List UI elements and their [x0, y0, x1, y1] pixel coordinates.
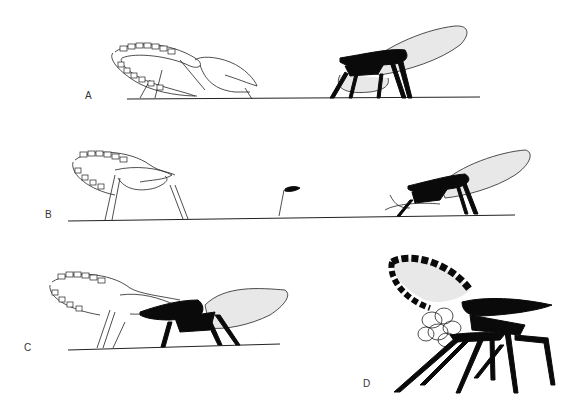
figure: A B C D [0, 0, 581, 413]
insect-black-b-right [385, 150, 530, 216]
insect-black-a-right [330, 26, 467, 98]
panel-a [112, 26, 480, 99]
ground-line-c [68, 344, 280, 350]
illustration-canvas [0, 0, 581, 413]
insect-outline-a-left [112, 43, 257, 99]
stalked-object-b [279, 187, 300, 216]
insect-black-c [140, 289, 288, 347]
panel-d [391, 258, 555, 393]
panel-b [68, 150, 530, 221]
antenna-segments-a-left [118, 43, 175, 90]
insect-black-d [394, 298, 555, 393]
insect-outline-b-left [73, 151, 188, 220]
ground-line-a [127, 97, 480, 99]
antenna-segments-c-left [52, 272, 105, 311]
ground-line-b [68, 215, 515, 221]
panel-c [50, 272, 288, 350]
